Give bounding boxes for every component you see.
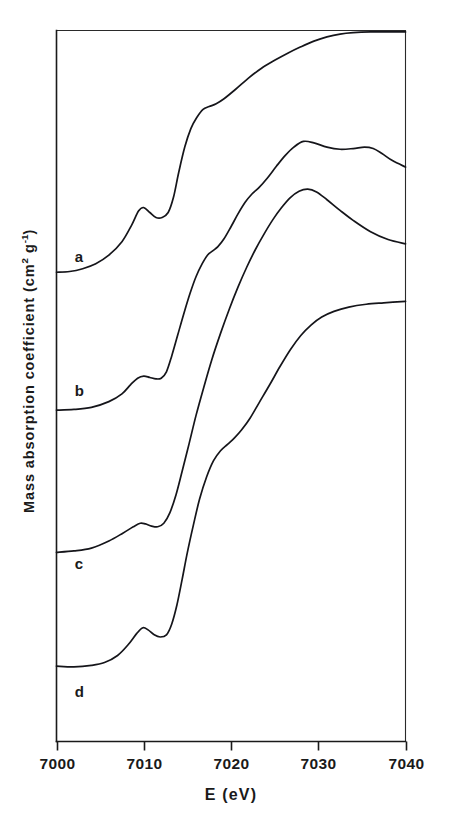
spectra-curves <box>57 32 406 667</box>
plot-frame <box>57 31 406 742</box>
x-tick-label-7010: 7010 <box>126 755 162 772</box>
x-axis-title: E (eV) <box>205 786 258 803</box>
frame-top-right <box>57 31 406 742</box>
spectrum-curve-a <box>57 32 406 272</box>
x-tick-label-7040: 7040 <box>388 755 424 772</box>
curve-label-group: abcd <box>75 248 84 700</box>
curve-label-a: a <box>75 248 84 265</box>
x-axis-ticks <box>58 742 407 751</box>
curve-label-c: c <box>75 555 83 572</box>
spectrum-curve-c <box>57 189 406 552</box>
x-tick-label-7020: 7020 <box>213 755 249 772</box>
x-tick-label-7030: 7030 <box>300 755 336 772</box>
spectrum-curve-b <box>57 141 406 410</box>
plot-svg: abcd 70007010702070307040 E (eV) <box>0 0 464 813</box>
x-axis-tick-labels: 70007010702070307040 <box>39 755 424 772</box>
spectrum-curve-d <box>57 301 406 666</box>
curve-label-d: d <box>75 683 84 700</box>
curve-label-b: b <box>75 382 84 399</box>
x-tick-label-7000: 7000 <box>39 755 75 772</box>
xanes-figure: abcd 70007010702070307040 E (eV) Mass ab… <box>0 0 464 813</box>
